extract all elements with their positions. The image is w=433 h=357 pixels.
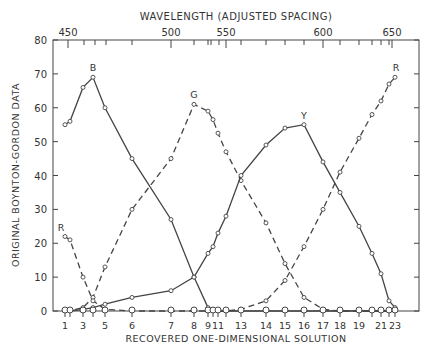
x-tick-label: 18 (334, 320, 346, 331)
baseline-marker (369, 307, 375, 313)
baseline-marker (386, 307, 392, 313)
x-tick-label: 14 (260, 320, 272, 331)
series-label: R (58, 222, 65, 233)
x-tick-label: 23 (389, 320, 401, 331)
y-tick-label: 40 (34, 171, 47, 182)
x-tick-label: 16 (298, 320, 310, 331)
baseline-marker (223, 307, 229, 313)
chart: 01020304050607080 450500550600650 BGYRR … (0, 0, 433, 357)
y-tick-label: 10 (34, 272, 47, 283)
baseline-marker (356, 307, 362, 313)
top-tick-label: 500 (161, 27, 180, 38)
baseline-marker (168, 307, 174, 313)
x-tick-label: 19 (353, 320, 365, 331)
series-lines: BGYRR (58, 62, 400, 311)
x-tick-label: 11 (212, 320, 224, 331)
top-tick-label: 550 (216, 27, 235, 38)
series-b: B (63, 62, 395, 311)
baseline-marker (90, 307, 96, 313)
y-tick-label: 0 (41, 306, 47, 317)
x-axis-label: RECOVERED ONE-DIMENSIONAL SOLUTION (125, 333, 346, 344)
series-label: R (393, 62, 400, 73)
top-tick-label: 600 (313, 27, 332, 38)
series-y: Y (65, 110, 397, 312)
series-g: G (65, 89, 395, 311)
x-tick-label: 1 (62, 320, 68, 331)
y-tick-label: 60 (34, 103, 47, 114)
x-tick-label: 21 (375, 320, 387, 331)
x-tick-label: 5 (102, 320, 108, 331)
x-tick-label: 7 (168, 320, 174, 331)
y-tick-label: 50 (34, 137, 47, 148)
x-tick-label: 3 (80, 320, 86, 331)
x-tick-label: 9 (205, 320, 211, 331)
x-tick-label: 8 (191, 320, 197, 331)
baseline-marker (263, 307, 269, 313)
x-tick-label: 17 (317, 320, 329, 331)
y-tick-label: 80 (34, 35, 47, 46)
top-axis-label: WAVELENGTH (ADJUSTED SPACING) (140, 11, 333, 22)
series-r: R (63, 62, 400, 311)
top-tick-label: 650 (382, 27, 401, 38)
baseline-marker (67, 307, 73, 313)
baseline-marker (129, 307, 135, 313)
baseline-marker (392, 307, 398, 313)
plot-frame (53, 40, 419, 311)
y-tick-label: 70 (34, 69, 47, 80)
x-tick-label: 13 (235, 320, 247, 331)
top-wavelength-axis: 450500550600650 (58, 27, 401, 48)
baseline-marker (320, 307, 326, 313)
baseline-marker (238, 307, 244, 313)
baseline-marker (191, 307, 197, 313)
y-tick-label: 30 (34, 204, 47, 215)
baseline-marker (102, 307, 108, 313)
baseline-marker (80, 307, 86, 313)
baseline-marker (215, 307, 221, 313)
x-tick-label: 15 (279, 320, 291, 331)
baseline-marker (282, 307, 288, 313)
baseline-marker (378, 307, 384, 313)
baseline-marker (301, 307, 307, 313)
series-label: G (190, 89, 197, 100)
top-tick-label: 450 (58, 27, 77, 38)
y-tick-label: 20 (34, 238, 47, 249)
series-label: B (90, 62, 97, 73)
x-tick-label: 6 (129, 320, 135, 331)
y-axis-label: ORIGINAL BOYNTON-GORDON DATA (10, 83, 21, 267)
series-label: Y (300, 110, 307, 121)
baseline-marker (337, 307, 343, 313)
